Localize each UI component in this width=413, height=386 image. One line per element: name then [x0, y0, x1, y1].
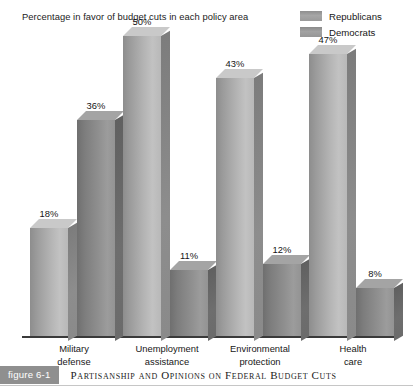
bar-side-face: [68, 223, 77, 341]
bar-group-military-defense: 18% 36%: [30, 36, 118, 336]
bar-value-label: 50%: [133, 16, 152, 27]
figure-caption-text: Partisanship and Opinions on Federal Bud…: [71, 369, 337, 381]
cat-line-1: Unemployment: [119, 343, 215, 356]
bar-side-face: [347, 49, 356, 341]
bar-value-label: 8%: [368, 268, 382, 279]
cat-line-1: Military: [26, 343, 122, 356]
bar-group-health-care: 47% 8%: [309, 36, 397, 336]
bar-side-face: [254, 73, 263, 341]
bar-side-face: [394, 283, 403, 341]
figure-caption: figure 6-1 Partisanship and Opinions on …: [0, 366, 413, 384]
bar-side-face: [161, 31, 170, 341]
figure-number-badge: figure 6-1: [0, 366, 59, 384]
bar-group-environmental-protection: 43% 12%: [216, 36, 304, 336]
bar-value-label: 47%: [319, 34, 338, 45]
x-axis-label-environmental-protection: Environmental protection: [212, 343, 308, 368]
bar-value-label: 43%: [226, 58, 245, 69]
bar-value-label: 11%: [180, 250, 198, 261]
x-axis-label-unemployment-assistance: Unemployment assistance: [119, 343, 215, 368]
bar-value-label: 36%: [87, 100, 106, 111]
bar-value-label: 18%: [40, 208, 59, 219]
chart-plot-area: 18% 36% 50% 11%: [0, 0, 413, 386]
cat-line-1: Health: [305, 343, 401, 356]
x-axis-label-military-defense: Military defense: [26, 343, 122, 368]
bar-value-label: 12%: [273, 244, 292, 255]
x-axis-label-health-care: Health care: [305, 343, 401, 368]
cat-line-1: Environmental: [212, 343, 308, 356]
bar-group-unemployment-assistance: 50% 11%: [123, 36, 211, 336]
